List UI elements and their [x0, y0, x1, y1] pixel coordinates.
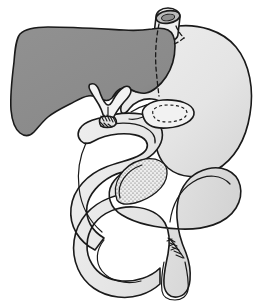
- anatomy-illustration-canvas: [0, 0, 259, 303]
- anatomy-figure: Roux-en-Y reconstruction after gastric s…: [0, 0, 259, 303]
- biliary-anastomosis-group: [100, 115, 117, 128]
